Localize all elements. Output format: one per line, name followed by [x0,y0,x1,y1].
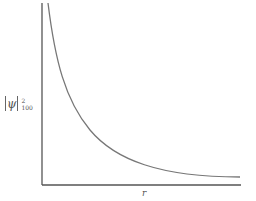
x-axis-label: r [142,188,146,198]
chart-plot [0,0,256,201]
y-axis-label: ψ 2100 [4,96,33,111]
probability-density-curve [48,3,240,177]
